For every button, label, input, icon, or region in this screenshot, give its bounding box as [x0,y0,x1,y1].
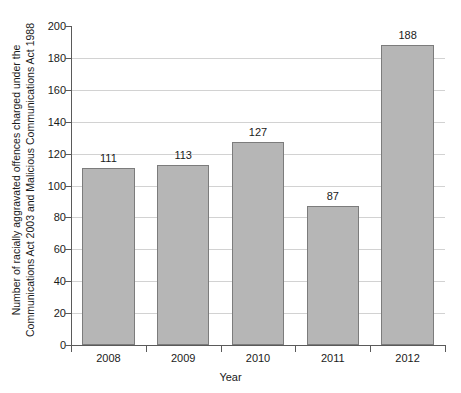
x-tick-label-2011: 2011 [321,352,345,364]
bar-2012[interactable] [381,45,433,345]
x-tick-mark [445,346,446,352]
x-tick-mark [221,346,222,352]
y-tick-label: 100 [48,180,66,192]
x-tick-label-2010: 2010 [246,352,270,364]
x-tick-mark [146,346,147,352]
x-axis-title: Year [0,371,461,383]
bars-layer: 11111312787188 [71,26,445,345]
x-tick-label-2009: 2009 [171,352,195,364]
bar-2008[interactable] [82,168,134,345]
bar-chart: Number of racially aggravated offences c… [0,0,461,393]
bar-value-label-2010: 127 [249,126,267,138]
bar-value-label-2008: 111 [100,152,117,164]
y-tick-label: 160 [48,84,66,96]
y-tick-label: 120 [48,148,66,160]
x-tick-label-2008: 2008 [96,352,120,364]
bar-value-label-2012: 188 [398,29,416,41]
y-tick-label: 180 [48,52,66,64]
y-axis-title-line-2: Communications Act 2003 and Malicious Co… [23,23,37,337]
bar-2011[interactable] [307,206,359,345]
bar-value-label-2009: 113 [174,149,192,161]
x-tick-label-2012: 2012 [395,352,419,364]
bar-2009[interactable] [157,165,209,345]
y-tick-label: 140 [48,116,66,128]
x-tick-mark [295,346,296,352]
bar-2010[interactable] [232,142,284,345]
y-axis-title-line-1: Number of racially aggravated offences c… [9,23,23,337]
x-axis-line [71,345,446,346]
y-axis-tick-labels: 020406080100120140160180200 [40,26,66,345]
x-tick-mark [71,346,72,352]
bar-value-label-2011: 87 [327,190,339,202]
x-tick-mark [370,346,371,352]
y-tick-label: 200 [48,20,66,32]
